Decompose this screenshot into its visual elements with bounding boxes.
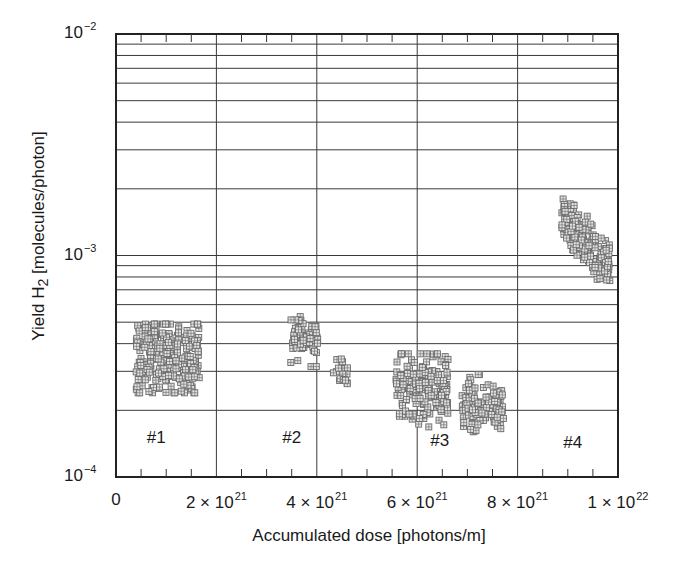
- data-point: [146, 369, 152, 375]
- data-point: [136, 328, 142, 334]
- data-point: [190, 367, 196, 373]
- data-point: [605, 259, 611, 265]
- data-point: [405, 351, 411, 357]
- scatter-chart: [0, 0, 686, 569]
- data-point: [312, 348, 318, 354]
- data-point: [173, 358, 179, 364]
- data-point: [312, 324, 318, 330]
- data-point: [564, 216, 570, 222]
- data-point: [175, 341, 181, 347]
- data-point: [142, 344, 148, 350]
- data-point: [400, 382, 406, 388]
- data-point: [194, 342, 200, 348]
- data-point: [176, 330, 182, 336]
- data-point: [598, 235, 604, 241]
- data-point: [288, 317, 294, 323]
- y-axis-label: Yield H2 [molecules/photon]: [29, 131, 51, 340]
- data-point: [422, 379, 428, 385]
- data-point: [426, 424, 432, 430]
- data-point: [163, 389, 169, 395]
- data-point: [604, 277, 610, 283]
- data-point: [584, 213, 590, 219]
- data-point: [475, 372, 481, 378]
- data-point: [499, 392, 505, 398]
- data-point: [444, 369, 450, 375]
- y-tick-label: 10−4: [64, 463, 96, 486]
- data-point: [165, 339, 171, 345]
- data-point: [597, 276, 603, 282]
- data-point: [483, 394, 489, 400]
- data-point: [400, 402, 406, 408]
- data-point: [173, 366, 179, 372]
- data-point: [295, 358, 301, 364]
- data-point: [165, 373, 171, 379]
- data-point: [398, 351, 404, 357]
- data-point: [494, 414, 500, 420]
- x-axis-label: Accumulated dose [photons/m]: [252, 526, 485, 546]
- data-point: [592, 245, 598, 251]
- data-point: [564, 235, 570, 241]
- data-point: [572, 234, 578, 240]
- data-point: [145, 336, 151, 342]
- data-point: [434, 351, 440, 357]
- data-point: [157, 345, 163, 351]
- data-point: [313, 330, 319, 336]
- data-point: [465, 381, 471, 387]
- data-point: [164, 351, 170, 357]
- data-point: [417, 395, 423, 401]
- data-point: [163, 321, 169, 327]
- data-point: [167, 359, 173, 365]
- cluster-label: #1: [147, 428, 166, 448]
- data-point: [588, 221, 594, 227]
- data-point: [398, 373, 404, 379]
- data-point: [592, 264, 598, 270]
- data-point: [195, 348, 201, 354]
- data-point: [441, 422, 447, 428]
- data-point: [434, 377, 440, 383]
- data-point: [186, 374, 192, 380]
- data-point: [314, 340, 320, 346]
- data-point: [313, 364, 319, 370]
- grid-lines: [116, 34, 618, 477]
- data-point: [159, 330, 165, 336]
- data-point: [500, 415, 506, 421]
- data-point: [157, 384, 163, 390]
- data-point: [155, 356, 161, 362]
- data-point: [470, 407, 476, 413]
- data-point: [156, 370, 162, 376]
- data-point: [394, 359, 400, 365]
- data-point: [424, 351, 430, 357]
- x-tick-label: 1 × 1022: [588, 490, 649, 513]
- data-point: [398, 393, 404, 399]
- data-point: [148, 349, 154, 355]
- data-point: [404, 363, 410, 369]
- data-point: [195, 321, 201, 327]
- data-point: [444, 400, 450, 406]
- data-point: [490, 383, 496, 389]
- data-point: [394, 381, 400, 387]
- data-point: [134, 384, 140, 390]
- data-point: [151, 329, 157, 335]
- data-point: [576, 224, 582, 230]
- data-point: [405, 370, 411, 376]
- data-point: [562, 208, 568, 214]
- data-point: [443, 363, 449, 369]
- data-point: [490, 390, 496, 396]
- x-tick-label: 0: [111, 490, 120, 510]
- data-point: [475, 422, 481, 428]
- data-point: [292, 336, 298, 342]
- data-point: [134, 343, 140, 349]
- data-point: [403, 397, 409, 403]
- x-tick-label: 8 × 1021: [487, 490, 548, 513]
- data-point: [559, 222, 565, 228]
- x-tick-label: 2 × 1021: [186, 490, 247, 513]
- data-point: [582, 254, 588, 260]
- data-point: [593, 234, 599, 240]
- data-point: [338, 356, 344, 362]
- data-point: [588, 253, 594, 259]
- data-point: [182, 338, 188, 344]
- data-point: [344, 365, 350, 371]
- data-point: [296, 327, 302, 333]
- data-point: [410, 371, 416, 377]
- data-point: [343, 377, 349, 383]
